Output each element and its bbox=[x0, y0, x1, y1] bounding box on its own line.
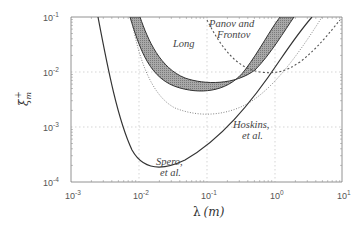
x-tick-1: 10-3 bbox=[65, 189, 81, 201]
annotation-hoskins: Hoskins, bbox=[232, 119, 269, 130]
x-axis-title: λ(m) bbox=[193, 205, 225, 219]
y-tick-3: 10-3 bbox=[43, 121, 59, 133]
annotation-hoskins-etal: et al. bbox=[242, 130, 263, 141]
x-tick-4: 100 bbox=[270, 189, 284, 201]
chart: Long Panov and Frontov Hoskins, et al. S… bbox=[0, 0, 359, 232]
x-tick-2: 10-2 bbox=[133, 189, 149, 201]
x-tick-5: 101 bbox=[337, 189, 351, 201]
x-tick-3: 10-1 bbox=[201, 189, 217, 201]
y-tick-2: 10-2 bbox=[43, 66, 59, 78]
minor-ticks bbox=[71, 17, 342, 182]
annotation-spero-etal: et al. bbox=[160, 167, 181, 178]
y-axis-title: ξm+ bbox=[13, 91, 33, 106]
annotation-long: Long bbox=[172, 38, 195, 49]
x-tick-labels: 10-3 10-2 10-1 100 101 bbox=[65, 189, 351, 201]
annotation-spero: Spero, bbox=[156, 156, 183, 167]
gridlines bbox=[71, 17, 342, 182]
annotation-frontov-text: Frontov bbox=[216, 29, 251, 40]
annotation-panov: Panov and bbox=[208, 18, 255, 29]
svg-text:ξm+: ξm+ bbox=[13, 91, 33, 106]
y-tick-4: 10-4 bbox=[43, 176, 59, 188]
y-tick-1: 10-1 bbox=[43, 11, 59, 23]
spero-curve bbox=[98, 17, 312, 167]
plot-frame bbox=[71, 17, 342, 182]
y-tick-labels: 10-1 10-2 10-3 10-4 bbox=[43, 11, 59, 188]
